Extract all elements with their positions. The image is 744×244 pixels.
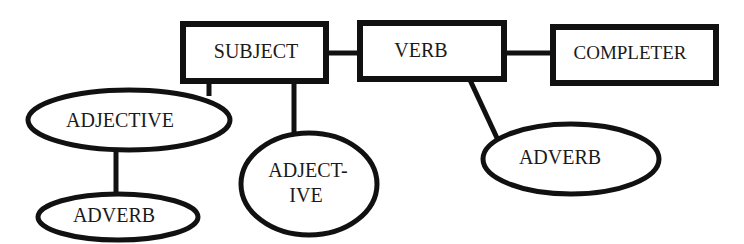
adjective-node: ADJECTIVE (28, 90, 230, 150)
subject-node: SUBJECT (183, 24, 326, 81)
adverb-right-label: ADVERB (519, 146, 601, 168)
verb-node: VERB (360, 23, 504, 79)
adjective-label: ADJECTIVE (66, 109, 174, 131)
verb-label: VERB (394, 39, 447, 61)
sentence-diagram: SUBJECT VERB COMPLETER ADJECTIVE ADVERB … (0, 0, 744, 244)
adjective-split-label-line1: ADJECT- (268, 159, 347, 181)
adverb-right-node: ADVERB (483, 124, 659, 194)
adjective-split-label-line2: IVE (289, 184, 322, 206)
adverb-left-label: ADVERB (73, 204, 155, 226)
completer-label: COMPLETER (574, 42, 687, 63)
adjective-split-node: ADJECT- IVE (241, 133, 377, 235)
subject-label: SUBJECT (214, 40, 298, 62)
adverb-left-node: ADVERB (38, 194, 198, 240)
completer-node: COMPLETER (553, 27, 716, 83)
link-verb-adverb (470, 80, 497, 138)
